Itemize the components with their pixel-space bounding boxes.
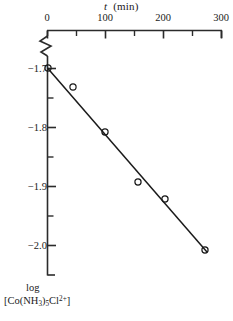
- x-axis-variable: t: [104, 0, 107, 12]
- x-tick-label-0: 0: [44, 12, 49, 23]
- y-tick-label-1-9: −1.9: [28, 181, 47, 192]
- x-tick-label-200: 200: [155, 12, 171, 23]
- y-tick-label-1-8: −1.8: [28, 122, 47, 133]
- x-axis-title: t (min): [104, 0, 139, 12]
- data-point: [135, 179, 141, 185]
- x-axis-unit: (min): [113, 0, 138, 12]
- y-minor-ticks: [48, 98, 54, 216]
- y-tick-label-2-0: −2.0: [28, 240, 47, 251]
- axis-break-symbol: [40, 36, 51, 56]
- x-axis: [47, 31, 222, 39]
- x-minor-ticks: [77, 31, 193, 37]
- fit-line: [48, 68, 208, 252]
- formula-prefix: [Co(NH: [4, 295, 38, 306]
- formula-charge: 2+: [59, 295, 67, 303]
- formula-cl: Cl: [49, 295, 59, 306]
- x-tick-label-100: 100: [97, 12, 113, 23]
- chart-figure: t (min) 0 100 200 300 −1.7 −1.8 −1.9 −2.…: [0, 0, 233, 321]
- x-tick-label-300: 300: [213, 12, 229, 23]
- formula-suffix: ]: [67, 295, 71, 306]
- data-point: [70, 84, 76, 90]
- data-point: [162, 196, 168, 202]
- y-axis-title-line1: log: [4, 281, 70, 294]
- y-tick-label-1-7: −1.7: [28, 63, 47, 74]
- y-axis-title: log [Co(NH3)5Cl2+]: [4, 281, 70, 307]
- y-axis-title-line2: [Co(NH3)5Cl2+]: [4, 294, 70, 307]
- chart-canvas: [0, 0, 233, 321]
